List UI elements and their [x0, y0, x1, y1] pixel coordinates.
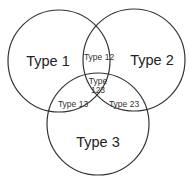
label-type-1: Type 1: [26, 53, 70, 69]
venn-diagram: Type 1 Type 2 Type 3 Type 12 Type 13 Typ…: [0, 0, 191, 179]
label-type-12: Type 12: [84, 52, 115, 62]
label-type-3: Type 3: [76, 134, 120, 150]
label-type-2: Type 2: [130, 52, 174, 68]
label-type-123-line2: 123: [91, 85, 105, 95]
label-type-23: Type 23: [109, 99, 140, 109]
label-type-13: Type 13: [58, 99, 89, 109]
